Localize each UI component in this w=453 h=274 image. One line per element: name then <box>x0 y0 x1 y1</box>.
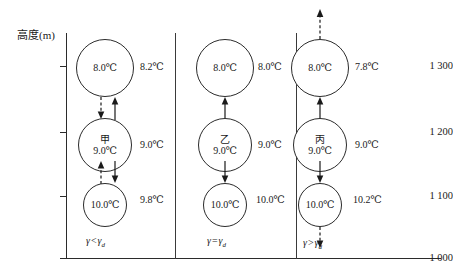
panel-1-env-temp-1100: 9.8℃ <box>140 194 164 205</box>
y-tick-label-1100: 1 100 <box>407 190 453 201</box>
panel-2-env-temp-1200: 9.0℃ <box>258 139 282 150</box>
panel-1-parcel-bottom-temp: 10.0℃ <box>91 199 120 210</box>
y-tick-mark-1300 <box>60 66 66 67</box>
panel-1-env-temp-1200: 9.0℃ <box>140 139 164 150</box>
panel-2-env-temp-1100: 10.0℃ <box>256 194 285 205</box>
panel-3-parcel-top: 8.0℃ <box>291 39 349 97</box>
atmospheric-stability-diagram: 高度(m) 1 300 1 200 1 100 1 000 8.0℃ 甲 9.0… <box>0 0 453 274</box>
y-axis-line <box>66 33 67 259</box>
panel-2-parcel-top-temp: 8.0℃ <box>213 62 237 73</box>
y-tick-label-1000: 1 000 <box>407 252 453 263</box>
y-tick-label-1300: 1 300 <box>407 60 453 71</box>
panel-2-gamma-subscript: d <box>223 241 227 249</box>
panel-2-env-temp-1300: 8.0℃ <box>258 61 282 72</box>
panel-1-env-temp-1300: 8.2℃ <box>140 61 164 72</box>
panel-2-parcel-top: 8.0℃ <box>196 39 254 97</box>
panel-1-parcel-top: 8.0℃ <box>76 39 134 97</box>
panel-1-parcel-top-temp: 8.0℃ <box>93 62 117 73</box>
y-tick-label-1200: 1 200 <box>407 126 453 137</box>
panel-2-parcel-middle-name: 乙 <box>220 134 230 145</box>
panel-1-parcel-middle-temp: 9.0℃ <box>93 145 117 156</box>
panel-2-solid-arrow-down <box>220 161 230 184</box>
panel-3-env-temp-1100: 10.2℃ <box>353 194 382 205</box>
panel-3-env-temp-1300: 7.8℃ <box>355 61 379 72</box>
panel-3-gamma-operator: > <box>307 237 315 248</box>
panel-1-parcel-bottom: 10.0℃ <box>83 183 127 227</box>
panel-2-gamma-operator: = <box>211 235 219 246</box>
panel-3-parcel-middle-temp: 9.0℃ <box>308 145 332 156</box>
panel-3-env-temp-1200: 9.0℃ <box>355 139 379 150</box>
panel-2-solid-arrow-up <box>220 97 230 120</box>
x-axis-line <box>66 258 441 259</box>
panel-1-gamma-operator: < <box>90 235 98 246</box>
panel-1-gamma-subscript: d <box>102 241 106 249</box>
panel-2-parcel-bottom: 10.0℃ <box>203 183 247 227</box>
panel-3-gamma-caption: γ>γd <box>303 237 322 251</box>
y-tick-mark-1200 <box>60 132 66 133</box>
panel-3-parcel-top-temp: 8.0℃ <box>308 62 332 73</box>
y-tick-mark-1100 <box>60 196 66 197</box>
panel-3-solid-arrow-up <box>315 97 325 120</box>
panel-1-solid-arrow-down <box>110 161 120 184</box>
y-tick-mark-1000 <box>60 258 66 259</box>
panel-2-gamma-caption: γ=γd <box>207 235 226 249</box>
panel-3-solid-arrow-down <box>315 161 325 184</box>
panel-3-parcel-middle-name: 丙 <box>315 134 325 145</box>
panel-1-parcel-middle-name: 甲 <box>100 134 110 145</box>
panel-3-parcel-bottom-temp: 10.0℃ <box>306 199 335 210</box>
panel-1-dashed-arrow-up <box>96 161 106 184</box>
panel-divider-1 <box>175 33 176 259</box>
panel-2-parcel-bottom-temp: 10.0℃ <box>211 199 240 210</box>
panel-3-parcel-bottom: 10.0℃ <box>298 183 342 227</box>
panel-1-gamma-caption: γ<γd <box>86 235 105 249</box>
panel-3-dashed-arrow-up-top <box>315 9 325 39</box>
panel-2-parcel-middle-temp: 9.0℃ <box>213 145 237 156</box>
panel-1-solid-arrow-up <box>110 97 120 120</box>
y-axis-title: 高度(m) <box>17 26 55 42</box>
panel-3-gamma-subscript: d <box>319 243 323 251</box>
panel-1-dashed-arrow-down <box>96 97 106 120</box>
